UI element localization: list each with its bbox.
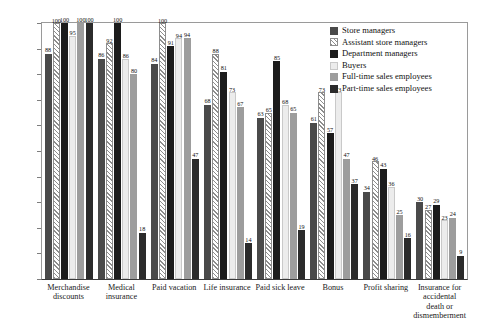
legend-swatch-icon [330,85,338,93]
bar-slot: 100 [61,23,68,279]
bar[interactable]: 65 [265,113,272,279]
bar[interactable]: 16 [404,238,411,279]
bar[interactable]: 91 [167,46,174,279]
bar-value-label: 88 [213,47,219,54]
bar[interactable]: 19 [298,230,305,279]
bar-value-label: 73 [319,86,325,93]
bar[interactable]: 68 [204,105,211,279]
legend-swatch-icon [330,62,338,70]
bar-value-label: 95 [70,29,76,36]
legend-item[interactable]: Assistant store managers [330,37,470,49]
bar-group: 8692100868018 [95,23,148,279]
bar-value-label: 30 [417,195,423,202]
x-axis-category-label: Paid vacation [148,283,201,321]
bar[interactable]: 29 [433,205,440,279]
bar-value-label: 100 [60,16,69,23]
bar[interactable]: 37 [351,184,358,279]
bar[interactable]: 100 [61,23,68,279]
bar-value-label: 85 [274,54,280,61]
bar[interactable]: 86 [98,59,105,279]
bar[interactable]: 100 [114,23,121,279]
bar-value-label: 25 [397,208,403,215]
bar[interactable]: 94 [175,38,182,279]
bar[interactable]: 68 [282,105,289,279]
bar[interactable]: 100 [77,23,84,279]
bar[interactable]: 81 [220,72,227,279]
bar[interactable]: 47 [192,159,199,279]
legend-item[interactable]: Store managers [330,25,470,37]
legend-label: Department managers [342,48,418,60]
bar-slot: 14 [245,23,252,279]
bar-value-label: 92 [106,37,112,44]
bar[interactable]: 18 [139,233,146,279]
bar-value-label: 36 [388,180,394,187]
bar[interactable]: 14 [245,243,252,279]
bar-value-label: 91 [168,39,174,46]
bar-slot: 100 [77,23,84,279]
bar[interactable]: 100 [86,23,93,279]
bar[interactable]: 61 [310,123,317,279]
bar[interactable]: 67 [237,107,244,279]
bar-value-label: 100 [84,16,93,23]
bar[interactable]: 92 [106,43,113,279]
legend-item[interactable]: Department managers [330,48,470,60]
legend-item[interactable]: Buyers [330,60,470,72]
bar[interactable]: 63 [257,118,264,279]
bar-slot: 94 [175,23,182,279]
legend-label: Buyers [342,60,366,72]
bar[interactable]: 100 [53,23,60,279]
x-axis-category-label: Merchandise discounts [42,283,95,321]
bar[interactable]: 27 [425,210,432,279]
bar-slot: 85 [273,23,280,279]
x-axis-category-label: Paid sick leave [254,283,307,321]
bar[interactable]: 100 [159,23,166,279]
bar[interactable]: 94 [184,38,191,279]
bar-slot: 100 [159,23,166,279]
bar[interactable]: 73 [318,92,325,279]
bar[interactable]: 65 [290,113,297,279]
bar[interactable]: 73 [335,92,342,279]
bar[interactable]: 23 [441,220,448,279]
bar-value-label: 65 [290,105,296,112]
bar-value-label: 68 [204,97,210,104]
legend-item[interactable]: Part-time sales employees [330,83,470,95]
bar[interactable]: 57 [327,133,334,279]
bar-value-label: 63 [258,110,264,117]
bar[interactable]: 88 [212,54,219,279]
bar-value-label: 43 [380,161,386,168]
bar[interactable]: 47 [343,159,350,279]
bar[interactable]: 84 [151,64,158,279]
bar-group: 8810010095100100 [42,23,95,279]
bar-slot: 86 [98,23,105,279]
bar-slot: 18 [139,23,146,279]
bar-value-label: 34 [364,184,370,191]
legend-swatch-icon [330,73,338,81]
bar[interactable]: 9 [457,256,464,279]
bar[interactable]: 95 [69,36,76,279]
bar-value-label: 94 [176,32,182,39]
bar[interactable]: 25 [396,215,403,279]
legend-label: Assistant store managers [342,37,427,49]
bar[interactable]: 85 [273,61,280,279]
bar[interactable]: 73 [229,92,236,279]
legend-swatch-icon [330,38,338,46]
bar[interactable]: 34 [363,192,370,279]
bar-value-label: 24 [450,210,456,217]
bar-slot: 65 [290,23,297,279]
bar[interactable]: 43 [380,169,387,279]
bar[interactable]: 88 [45,54,52,279]
legend-item[interactable]: Full-time sales employees [330,71,470,83]
bar[interactable]: 46 [372,161,379,279]
bar[interactable]: 24 [449,218,456,279]
bar-slot: 88 [212,23,219,279]
bar[interactable]: 36 [388,187,395,279]
bar-slot: 84 [151,23,158,279]
bar-value-label: 61 [311,115,317,122]
bar[interactable]: 30 [416,202,423,279]
bar-value-label: 68 [282,98,288,105]
bar-value-label: 14 [245,236,251,243]
bar-value-label: 88 [45,46,51,53]
bar[interactable]: 86 [122,59,129,279]
bar-slot: 63 [257,23,264,279]
bar[interactable]: 80 [130,74,137,279]
